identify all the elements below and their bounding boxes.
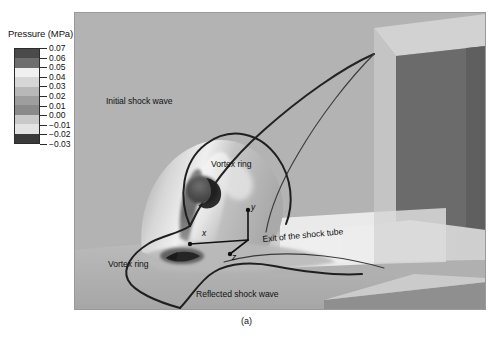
colorbar-tick-4 [40,86,47,87]
colorbar-band-3 [15,77,39,86]
colorbar-band-6 [15,105,39,114]
block-left-face [374,28,396,238]
annotation-vortex-ring-upper: Vortex ring [211,159,252,169]
colorbar-gradient [14,48,40,144]
colorbar-tick-5 [40,96,47,97]
colorbar-tick-3 [40,77,47,78]
colorbar-tick-7 [40,115,47,116]
colorbar-ticks [40,48,48,144]
colorbar-tick-10 [40,144,47,145]
axis-label-z: z [232,252,236,262]
figure-panel-a: Pressure (MPa) 0.070.060.050.040.030.020… [0,0,493,340]
shock-tube-exit-face-right [374,208,446,264]
colorbar-title: Pressure (MPa) [8,28,73,39]
colorbar-tick-8 [40,125,47,126]
colorbar-tick-0 [40,48,47,49]
colorbar-band-7 [15,115,39,124]
colorbar-band-9 [15,134,39,143]
colorbar-tick-6 [40,106,47,107]
annotation-initial-shock-wave: Initial shock wave [106,96,172,106]
annotation-vortex-ring-lower: Vortex ring [108,259,149,269]
annotation-reflected-shock-wave: Reflected shock wave [196,289,279,299]
cfd-render-panel: Initial shock wave Vortex ring Vortex ri… [74,12,486,310]
colorbar-band-5 [15,96,39,105]
colorbar-tick-9 [40,134,47,135]
vortex-ring-lower-glyph [160,248,204,264]
colorbar-band-0 [15,49,39,58]
figure-caption: (a) [0,316,493,326]
axis-label-y: y [251,202,255,212]
colorbar-band-4 [15,87,39,96]
colorbar-band-8 [15,124,39,133]
colorbar-band-1 [15,58,39,67]
colorbar-tick-2 [40,67,47,68]
axis-y-cap [246,208,250,212]
axis-x-cap [188,242,192,246]
colorbar-band-2 [15,68,39,77]
colorbar-tick-1 [40,58,47,59]
block-seam [466,46,486,244]
axis-label-x: x [202,228,206,238]
